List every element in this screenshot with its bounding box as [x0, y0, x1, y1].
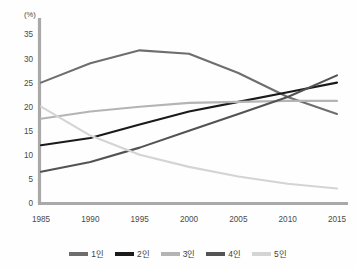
chart-container: (%) 05101520253035 198519901995200020052…	[0, 0, 356, 270]
series-line-5인	[41, 107, 337, 189]
legend-item-3인[interactable]: 3인	[161, 250, 196, 258]
y-tick-label: 25	[24, 79, 34, 88]
legend-item-label: 5인	[274, 250, 287, 258]
x-axis-tick-labels: 1985199019952000200520102015	[32, 215, 347, 224]
legend-swatch-icon	[252, 252, 271, 256]
y-tick-label: 0	[28, 199, 33, 208]
y-tick-label: 30	[24, 55, 34, 64]
y-tick-label: 35	[24, 30, 34, 39]
y-tick-label: 15	[24, 127, 34, 136]
series-line-4인	[41, 75, 337, 171]
chart-svg: (%) 05101520253035 198519901995200020052…	[0, 0, 356, 240]
y-tick-label: 5	[28, 175, 33, 184]
legend-swatch-icon	[115, 252, 134, 256]
legend-item-4인[interactable]: 4인	[206, 250, 241, 258]
legend-item-label: 2인	[137, 250, 150, 258]
chart-legend: 1인2인3인4인5인	[0, 243, 356, 265]
legend-item-2인[interactable]: 2인	[115, 250, 150, 258]
series-line-3인	[41, 101, 337, 119]
x-tick-label: 2000	[180, 215, 199, 224]
legend-item-label: 3인	[183, 250, 196, 258]
x-tick-label: 2010	[279, 215, 298, 224]
legend-item-label: 1인	[91, 250, 104, 258]
y-tick-label: 10	[24, 151, 34, 160]
series-lines-group	[41, 50, 337, 188]
x-tick-label: 2005	[229, 215, 248, 224]
legend-item-1인[interactable]: 1인	[69, 250, 104, 258]
y-axis-unit-label: (%)	[24, 10, 36, 19]
series-line-2인	[41, 83, 337, 146]
x-tick-label: 1990	[81, 215, 100, 224]
y-tick-label: 20	[24, 103, 34, 112]
x-tick-label: 2015	[328, 215, 347, 224]
legend-swatch-icon	[206, 252, 225, 256]
x-tick-label: 1995	[131, 215, 150, 224]
y-axis-tick-labels: 05101520253035	[24, 30, 34, 208]
legend-item-5인[interactable]: 5인	[252, 250, 287, 258]
line-chart-figure: (%) 05101520253035 198519901995200020052…	[0, 0, 356, 240]
x-tick-label: 1985	[32, 215, 51, 224]
series-line-1인	[41, 50, 337, 114]
legend-swatch-icon	[69, 252, 88, 256]
legend-swatch-icon	[161, 252, 180, 256]
legend-item-label: 4인	[228, 250, 241, 258]
